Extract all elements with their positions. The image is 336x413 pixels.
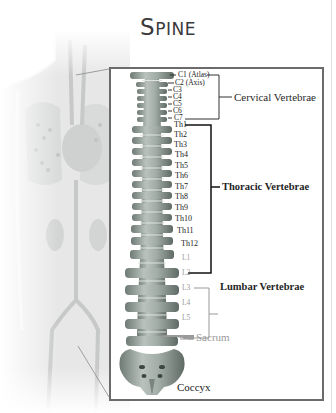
- label-th2: Th2: [174, 131, 187, 139]
- label-l5: L5: [182, 314, 190, 322]
- label-th1: Th1: [174, 121, 187, 129]
- label-th10: Th10: [175, 215, 192, 223]
- label-th8: Th8: [175, 193, 188, 201]
- label-th6: Th6: [175, 172, 188, 180]
- page-edge-line: [331, 0, 332, 413]
- group-label-cervical: Cervical Vertebrae: [234, 91, 316, 103]
- title-initial: S: [140, 14, 155, 40]
- label-l3: L3: [182, 284, 190, 292]
- label-sacrum: Sacrum: [196, 331, 230, 343]
- label-l2: L2: [182, 269, 190, 277]
- group-label-thoracic: Thoracic Vertebrae: [222, 181, 309, 192]
- label-th11: Th11: [177, 227, 194, 235]
- label-th5: Th5: [175, 162, 188, 170]
- label-l1: L1: [182, 254, 190, 262]
- label-th3: Th3: [174, 141, 187, 149]
- label-coccyx: Coccyx: [177, 381, 211, 393]
- title-rest: PINE: [155, 19, 196, 39]
- label-th9: Th9: [175, 204, 188, 212]
- label-th4: Th4: [175, 151, 188, 159]
- label-th12: Th12: [181, 240, 198, 248]
- label-th7: Th7: [175, 183, 188, 191]
- label-l4: L4: [182, 299, 190, 307]
- group-label-lumbar: Lumbar Vertebrae: [220, 281, 304, 292]
